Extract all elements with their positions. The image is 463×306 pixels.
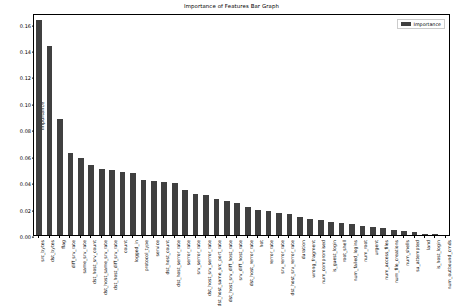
x-tick-mark [195,236,196,238]
x-tick-label: count [123,240,128,253]
bar [99,169,105,235]
x-tick-mark [434,236,435,238]
x-tick-label: dst_host_serror_rate [176,240,181,287]
x-tick-label: num_root [363,240,368,262]
bar [307,219,313,235]
x-tick-label: dst_host_srv_rerror_rate [290,240,295,295]
bar [401,231,407,235]
x-tick-mark [205,236,206,238]
x-tick-mark [288,236,289,238]
x-tick-mark [351,236,352,238]
y-tick-label: 0.10 [20,102,31,108]
x-tick-label: wrong_fragment [311,240,316,278]
bar-series [34,15,449,235]
bar [120,172,126,235]
x-tick-mark [132,236,133,238]
x-tick-label: land [426,240,431,250]
y-tick-label: 0.16 [20,23,31,29]
x-tick-mark [111,236,112,238]
x-tick-label: same_srv_rate [82,240,87,273]
x-tick-mark [122,236,123,238]
x-tick-label: service [155,240,160,256]
x-tick-mark [69,236,70,238]
x-tick-label: serror_rate [186,240,191,265]
x-tick-label: dst_host_srv_count [92,240,97,284]
bar [88,165,94,235]
bar [339,223,345,235]
bar [68,153,74,235]
legend-swatch-importance [401,22,411,26]
x-tick-label: dst_host_same_src_port_rate [217,240,222,306]
y-tick-label: 0.14 [20,49,31,55]
bar [318,220,324,235]
x-tick-label: srv_diff_host_rate [238,240,243,281]
x-tick-label: flag [61,240,66,249]
x-tick-mark [361,236,362,238]
x-tick-mark [80,236,81,238]
x-tick-label: logged_in [134,240,139,262]
x-tick-mark [393,236,394,238]
bar [193,194,199,235]
bar [203,195,209,235]
x-tick-mark [101,236,102,238]
x-tick-mark [226,236,227,238]
x-tick-mark [320,236,321,238]
x-tick-label: dst_host_same_srv_rate [103,240,108,295]
x-tick-mark [330,236,331,238]
x-tick-label: dst_host_count [165,240,170,275]
x-tick-label: num_shells [405,240,410,266]
bar [214,199,220,235]
bar [172,183,178,235]
x-tick-mark [299,236,300,238]
x-tick-label: num_file_creations [394,240,399,283]
x-tick-mark [257,236,258,238]
bar [151,181,157,235]
bar [36,20,42,235]
bar [224,201,230,235]
x-tick-label: num_access_files [384,240,389,280]
bar [109,170,115,235]
x-tick-label: dst_host_rerror_rate [249,240,254,286]
bar [182,190,188,235]
x-tick-label: is_host_login [436,240,441,269]
x-tick-label: dst_host_srv_diff_host_rate [228,240,233,302]
bar [297,217,303,236]
x-tick-mark [341,236,342,238]
bar [287,214,293,235]
bar [47,46,53,235]
x-tick-label: srv_rerror_rate [280,240,285,274]
x-tick-mark [236,236,237,238]
bar [370,227,376,235]
x-tick-label: num_compromised [321,240,326,284]
x-tick-mark [382,236,383,238]
x-tick-mark [90,236,91,238]
x-tick-label: dst_host_diff_srv_rate [113,240,118,290]
bar [266,211,272,235]
bar [78,158,84,235]
chart-title: Importance of Features Bar Graph [0,3,463,9]
legend: Importance [397,19,446,29]
bar [161,182,167,235]
x-tick-mark [372,236,373,238]
x-tick-mark [424,236,425,238]
y-tick-label: 0.02 [20,208,31,214]
y-tick-label: 0.00 [20,234,31,240]
y-tick-label: 0.12 [20,75,31,81]
y-tick-label: 0.06 [20,155,31,161]
x-tick-label: src_bytes [40,240,45,262]
bar [57,119,63,235]
bar [432,234,438,235]
x-tick-mark [49,236,50,238]
bar [412,232,418,235]
x-tick-label: srv_serror_rate [196,240,201,274]
x-tick-label: dst_bytes [50,240,55,262]
bar [245,207,251,235]
y-tick-label: 0.08 [20,128,31,134]
x-axis: src_bytesdst_bytesflagdiff_srv_ratesame_… [33,236,450,294]
x-tick-label: protocol_type [144,240,149,271]
bar [349,224,355,235]
x-tick-label: num_outbound_cmds [447,240,452,289]
y-tick-label: 0.04 [20,181,31,187]
x-tick-mark [59,236,60,238]
